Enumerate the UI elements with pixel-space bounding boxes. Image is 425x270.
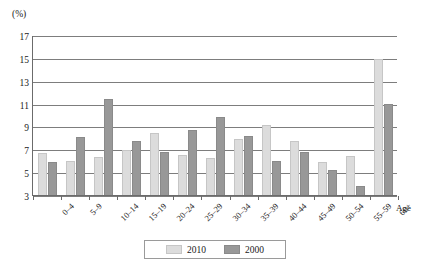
x-axis-category-label: 5–9	[88, 201, 104, 217]
bar-2010-0–4	[38, 153, 47, 195]
x-axis-category-label: 10–14	[118, 201, 140, 223]
x-axis-title: Age	[396, 203, 411, 213]
x-axis-tick	[398, 196, 399, 200]
legend-label-2010: 2010	[187, 245, 206, 255]
bar-2010-20–24	[150, 133, 159, 195]
x-axis-category-label: 55–59	[371, 201, 393, 223]
bar-2000-40–44	[272, 161, 281, 195]
y-axis-unit-label: (%)	[12, 9, 26, 20]
bar-group	[118, 36, 146, 195]
y-axis-tick-label: 15	[20, 55, 30, 65]
x-axis-tick	[342, 196, 343, 200]
bar-group	[174, 36, 202, 195]
x-axis-tick	[61, 196, 62, 200]
bar-group	[313, 36, 341, 195]
x-axis-tick	[117, 196, 118, 200]
chart-legend: 2010 2000	[144, 240, 286, 259]
bar-2010-40–44	[262, 125, 271, 195]
bar-2000-15–19	[132, 141, 141, 195]
y-axis-tick-label: 5	[24, 169, 29, 179]
bar-2000-50–54	[328, 170, 337, 195]
bar-2010-60+	[374, 59, 383, 195]
bar-group	[62, 36, 90, 195]
bar-2000-30–34	[216, 117, 225, 195]
bar-2010-25–29	[178, 155, 187, 195]
legend-swatch-icon-2010	[166, 245, 182, 254]
bar-group	[285, 36, 313, 195]
bar-chart: (%) 171513119753 0–45–910–1415–1920–2425…	[0, 0, 425, 270]
bar-2000-0–4	[48, 162, 57, 195]
x-axis-category-label: 35–39	[259, 201, 281, 223]
y-axis-tick-label: 13	[20, 78, 30, 88]
x-axis-category-label: 50–54	[343, 201, 365, 223]
bar-2000-5–9	[76, 137, 85, 195]
bar-2000-25–29	[188, 130, 197, 195]
x-axis-category-label: 20–24	[174, 201, 196, 223]
bar-2000-55–59	[356, 186, 365, 195]
x-axis-tick	[314, 196, 315, 200]
x-axis-tick	[33, 196, 34, 200]
x-axis-tick	[230, 196, 231, 200]
legend-item-2000: 2000	[224, 245, 264, 255]
x-axis-category-label: 0–4	[60, 201, 76, 217]
x-axis-tick	[89, 196, 90, 200]
bar-2010-50–54	[318, 162, 327, 195]
bar-2010-55–59	[346, 156, 355, 195]
x-axis-category-label: 45–49	[315, 201, 337, 223]
bar-2000-10–14	[104, 99, 113, 195]
bar-group	[341, 36, 369, 195]
x-axis-category-label: 30–34	[231, 201, 253, 223]
legend-label-2000: 2000	[245, 245, 264, 255]
bar-group	[34, 36, 62, 195]
legend-swatch-icon-2000	[224, 245, 240, 254]
x-axis-tick	[286, 196, 287, 200]
bar-2000-45–49	[300, 152, 309, 195]
y-axis-tick-label: 17	[20, 32, 30, 42]
x-axis-tick	[145, 196, 146, 200]
x-axis-category-label: 40–44	[287, 201, 309, 223]
bar-2010-30–34	[206, 158, 215, 195]
bars-layer	[34, 36, 397, 195]
x-axis-category-labels: 0–45–910–1415–1920–2425–2930–3435–3940–4…	[32, 201, 397, 235]
bar-group	[229, 36, 257, 195]
x-axis-tick	[201, 196, 202, 200]
bar-group	[90, 36, 118, 195]
x-axis-category-label: 25–29	[202, 201, 224, 223]
plot-area: 171513119753	[32, 36, 397, 196]
bar-2000-60+	[384, 104, 393, 195]
bar-2010-5–9	[66, 161, 75, 195]
bar-group	[202, 36, 230, 195]
bar-group	[257, 36, 285, 195]
x-axis-tick	[258, 196, 259, 200]
bar-2000-20–24	[160, 152, 169, 195]
x-axis-category-label: 15–19	[146, 201, 168, 223]
x-axis-tick	[173, 196, 174, 200]
bar-2010-15–19	[122, 150, 131, 195]
bar-2010-35–39	[234, 139, 243, 195]
y-axis-tick-label: 7	[24, 146, 29, 156]
bar-2010-10–14	[94, 157, 103, 195]
y-axis-tick-label: 9	[24, 123, 29, 133]
legend-item-2010: 2010	[166, 245, 206, 255]
y-axis-tick-label: 11	[20, 101, 29, 111]
bar-2000-35–39	[244, 136, 253, 195]
x-axis-tick	[370, 196, 371, 200]
bar-group	[369, 36, 397, 195]
y-axis-tick-label: 3	[24, 192, 29, 202]
bar-group	[146, 36, 174, 195]
bar-2010-45–49	[290, 141, 299, 195]
